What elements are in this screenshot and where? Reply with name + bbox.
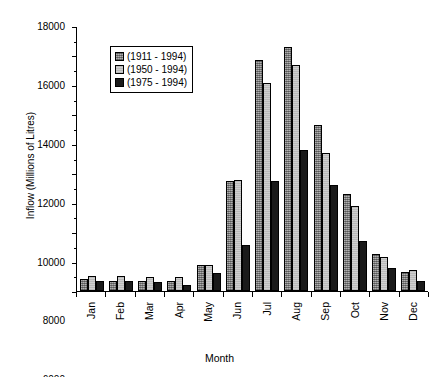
- bar: [380, 257, 388, 291]
- bar: [234, 180, 242, 291]
- y-tick-label: 16000: [37, 81, 65, 91]
- bar: [175, 277, 183, 291]
- legend-item: (1975 - 1994): [115, 76, 187, 89]
- y-tick-label: 18000: [37, 22, 65, 32]
- x-axis-labels: JanFebMarAprMayJunJulAugSepOctNovDec: [76, 300, 428, 346]
- bar: [167, 281, 175, 291]
- bar-chart: Inflow (Millions of Litres) 020004000600…: [0, 0, 439, 377]
- x-tick-label: Aug: [290, 302, 302, 321]
- x-tick: [399, 292, 400, 297]
- legend-swatch-icon: [115, 65, 124, 74]
- bar-group: [340, 27, 369, 291]
- x-label-cell: Jan: [76, 300, 105, 346]
- x-tick-label: Jul: [261, 302, 273, 315]
- x-tick: [281, 292, 282, 297]
- x-tick-label: Dec: [407, 302, 419, 321]
- bar: [314, 125, 322, 291]
- legend-label: (1911 - 1994): [127, 51, 186, 62]
- legend-swatch-icon: [115, 52, 124, 61]
- x-tick-label: Jan: [85, 302, 97, 319]
- x-tick-label: Sep: [319, 302, 331, 321]
- x-label-cell: Mar: [135, 300, 164, 346]
- bar: [271, 181, 279, 291]
- x-tick-label: Feb: [114, 302, 126, 320]
- x-tick-label: Oct: [349, 302, 361, 318]
- bar: [109, 281, 117, 291]
- legend: (1911 - 1994)(1950 - 1994)(1975 - 1994): [110, 46, 193, 93]
- bar: [197, 265, 205, 291]
- x-axis-title: Month: [0, 352, 439, 364]
- bar: [417, 281, 425, 291]
- bar: [242, 245, 250, 291]
- x-tick: [164, 292, 165, 297]
- bar: [205, 265, 213, 292]
- bar-group: [253, 27, 282, 291]
- bar: [343, 194, 351, 291]
- bar: [388, 268, 396, 291]
- bar: [292, 65, 300, 291]
- y-tick-label: 14000: [37, 140, 65, 150]
- bar: [300, 150, 308, 291]
- legend-label: (1975 - 1994): [127, 77, 187, 88]
- bar: [117, 276, 125, 291]
- legend-item: (1911 - 1994): [115, 50, 187, 63]
- bar-group: [223, 27, 252, 291]
- x-tick: [252, 292, 253, 297]
- x-tick: [428, 292, 429, 297]
- bar: [401, 272, 409, 291]
- x-tick: [105, 292, 106, 297]
- x-label-cell: Oct: [340, 300, 369, 346]
- bar: [255, 60, 263, 291]
- x-tick: [340, 292, 341, 297]
- x-tick: [369, 292, 370, 297]
- y-axis-title: Inflow (Millions of Litres): [25, 56, 36, 276]
- x-tick-label: Mar: [143, 302, 155, 320]
- bar: [372, 254, 380, 291]
- bar: [284, 47, 292, 291]
- x-tick-label: Apr: [173, 302, 185, 318]
- bar: [351, 206, 359, 291]
- bar-group: [77, 27, 106, 291]
- x-label-cell: Apr: [164, 300, 193, 346]
- bar: [88, 276, 96, 291]
- x-label-cell: Sep: [311, 300, 340, 346]
- x-tick: [193, 292, 194, 297]
- x-tick-label: Jun: [231, 302, 243, 319]
- y-tick-label: 10000: [37, 258, 65, 268]
- y-tick-label: 12000: [37, 199, 65, 209]
- bar: [154, 282, 162, 291]
- bar: [146, 277, 154, 291]
- bar-group: [370, 27, 399, 291]
- bar-group: [282, 27, 311, 291]
- bar: [80, 279, 88, 291]
- y-tick-label: 8000: [43, 316, 65, 326]
- x-label-cell: May: [193, 300, 222, 346]
- bar: [226, 181, 234, 291]
- x-label-cell: Aug: [281, 300, 310, 346]
- x-axis-ticks: [76, 292, 428, 298]
- bar-group: [194, 27, 223, 291]
- bar: [359, 241, 367, 291]
- legend-swatch-icon: [115, 78, 124, 87]
- bar: [330, 185, 338, 291]
- x-label-cell: Feb: [105, 300, 134, 346]
- x-tick-label: May: [202, 302, 214, 322]
- legend-item: (1950 - 1994): [115, 63, 187, 76]
- x-label-cell: Jul: [252, 300, 281, 346]
- bar: [138, 281, 146, 291]
- x-tick-label: Nov: [378, 302, 390, 321]
- bar: [322, 153, 330, 291]
- bar-group: [399, 27, 428, 291]
- x-tick: [223, 292, 224, 297]
- bar: [125, 281, 133, 291]
- bar: [263, 83, 271, 291]
- x-tick: [76, 292, 77, 297]
- x-label-cell: Dec: [399, 300, 428, 346]
- bar: [409, 270, 417, 291]
- legend-label: (1950 - 1994): [127, 64, 187, 75]
- x-tick: [311, 292, 312, 297]
- x-label-cell: Jun: [223, 300, 252, 346]
- x-label-cell: Nov: [369, 300, 398, 346]
- bar-group: [311, 27, 340, 291]
- x-tick: [135, 292, 136, 297]
